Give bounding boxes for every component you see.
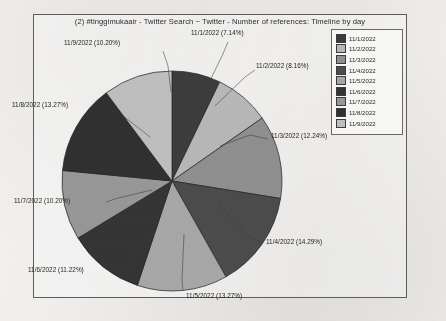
- slice-label-11-9: 11/9/2022 (10.20%): [64, 39, 120, 46]
- legend-item-11-3-2022: 11/3/2022: [336, 54, 402, 65]
- legend-swatch-icon: [336, 97, 346, 106]
- legend-swatch-icon: [336, 66, 346, 75]
- slice-label-11-2: 11/2/2022 (8.16%): [256, 62, 309, 69]
- slice-label-11-6: 11/6/2022 (11.22%): [28, 266, 84, 273]
- legend-label: 11/2/2022: [349, 45, 376, 52]
- pie-slices: [62, 71, 282, 291]
- legend-label: 11/1/2022: [349, 35, 376, 42]
- slice-label-11-8: 11/8/2022 (13.27%): [12, 101, 68, 108]
- slice-label-11-7: 11/7/2022 (10.20%): [14, 197, 70, 204]
- legend-item-11-5-2022: 11/5/2022: [336, 75, 402, 86]
- legend-item-11-7-2022: 11/7/2022: [336, 97, 402, 108]
- legend-swatch-icon: [336, 34, 346, 43]
- slice-label-11-1: 11/1/2022 (7.14%): [191, 29, 244, 36]
- legend-label: 11/6/2022: [349, 88, 376, 95]
- slice-label-11-4: 11/4/2022 (14.29%): [266, 238, 322, 245]
- legend-item-11-9-2022: 11/9/2022: [336, 118, 402, 129]
- legend-label: 11/9/2022: [349, 120, 376, 127]
- legend-label: 11/8/2022: [349, 109, 376, 116]
- slice-label-11-3: 11/3/2022 (12.24%): [271, 132, 327, 139]
- legend-swatch-icon: [336, 119, 346, 128]
- legend-swatch-icon: [336, 108, 346, 117]
- legend-swatch-icon: [336, 87, 346, 96]
- legend-swatch-icon: [336, 55, 346, 64]
- legend-item-11-6-2022: 11/6/2022: [336, 86, 402, 97]
- legend-label: 11/7/2022: [349, 98, 376, 105]
- legend-swatch-icon: [336, 44, 346, 53]
- legend-item-11-4-2022: 11/4/2022: [336, 65, 402, 76]
- slice-label-11-5: 11/5/2022 (13.27%): [186, 292, 242, 299]
- legend-item-11-2-2022: 11/2/2022: [336, 44, 402, 55]
- legend-label: 11/3/2022: [349, 56, 376, 63]
- legend-swatch-icon: [336, 76, 346, 85]
- legend-label: 11/5/2022: [349, 77, 376, 84]
- legend-item-11-8-2022: 11/8/2022: [336, 107, 402, 118]
- legend-item-11-1-2022: 11/1/2022: [336, 33, 402, 44]
- legend-label: 11/4/2022: [349, 67, 376, 74]
- legend: 11/1/202211/2/202211/3/202211/4/202211/5…: [331, 29, 403, 135]
